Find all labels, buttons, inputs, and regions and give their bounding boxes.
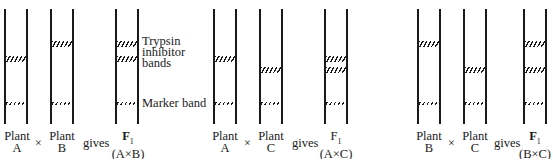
lane-edge [417, 9, 419, 124]
f1-subscript: 1 [537, 137, 541, 146]
gives-text: gives [292, 136, 318, 151]
cross-symbol: × [35, 136, 42, 151]
marker-band [116, 102, 138, 105]
trypsin-inhibitor-band-a [5, 56, 27, 62]
gel-lane-f1-axc [324, 9, 348, 124]
label-line: bands [142, 58, 185, 69]
lane-edge [439, 9, 441, 124]
trypsin-inhibitor-band-a [325, 56, 347, 62]
parent-label-c: Plant C [460, 130, 490, 154]
marker-band [325, 102, 347, 105]
gel-lane-plant-a [213, 9, 237, 124]
marker-band [524, 102, 546, 105]
lane-edge [50, 9, 52, 124]
f1-subscript: 1 [337, 137, 341, 146]
f1-label: F1 [515, 130, 553, 148]
label-id: C [256, 142, 286, 154]
trypsin-inhibitor-band-b [418, 41, 440, 47]
f1-subscript: 1 [130, 137, 134, 146]
cross-symbol: × [448, 136, 455, 151]
parent-label-a: Plant A [2, 130, 32, 154]
f1-label: F1 [316, 130, 356, 148]
gel-lane-f1-axb [115, 9, 139, 124]
lane-edge [137, 9, 139, 124]
gel-lane-plant-b [50, 9, 74, 124]
parent-label-b: Plant B [47, 130, 77, 154]
cross-symbol: × [244, 136, 251, 151]
trypsin-inhibitor-band-b [116, 41, 138, 47]
lane-edge [72, 9, 74, 124]
marker-band [51, 102, 73, 105]
marker-band [214, 102, 236, 105]
gel-lane-plant-a [4, 9, 28, 124]
cross-notation: (B×C) [515, 148, 553, 160]
trypsin-inhibitor-band-c [464, 67, 486, 73]
parent-label-c: Plant C [256, 130, 286, 154]
marker-band [464, 102, 486, 105]
trypsin-inhibitor-band-c [260, 67, 282, 73]
offspring-label-axb: F1 (A×B) [108, 130, 148, 159]
f1-word: F [122, 129, 130, 143]
gel-lane-plant-c [259, 9, 283, 124]
lane-edge [26, 9, 28, 124]
trypsin-inhibitor-band-c [325, 67, 347, 73]
label-id: A [210, 142, 240, 154]
lane-edge [235, 9, 237, 124]
marker-band [260, 102, 282, 105]
offspring-label-bxc: F1 (B×C) [515, 130, 553, 159]
marker-band [418, 102, 440, 105]
trypsin-inhibitor-label: Trypsin inhibitor bands [142, 36, 185, 69]
parent-label-b: Plant B [414, 130, 444, 154]
label-id: C [460, 142, 490, 154]
lane-edge [213, 9, 215, 124]
trypsin-inhibitor-band-b [524, 41, 546, 47]
f1-word: F [529, 129, 537, 143]
label-id: B [47, 142, 77, 154]
cross-notation: (A×B) [108, 148, 148, 160]
label-id: A [2, 142, 32, 154]
gel-lane-f1-bxc [523, 9, 547, 124]
trypsin-inhibitor-band-a [116, 56, 138, 62]
f1-label: F1 [108, 130, 148, 148]
gel-lane-plant-c [463, 9, 487, 124]
parent-label-a: Plant A [210, 130, 240, 154]
marker-band [5, 102, 27, 105]
gives-text: gives [83, 136, 109, 151]
label-id: B [414, 142, 444, 154]
trypsin-inhibitor-band-c [524, 67, 546, 73]
cross-notation: (A×C) [316, 148, 356, 160]
trypsin-inhibitor-band-b [51, 41, 73, 47]
marker-band-label: Marker band [142, 98, 206, 109]
trypsin-inhibitor-band-a [214, 56, 236, 62]
gel-lane-plant-b [417, 9, 441, 124]
lane-edge [4, 9, 6, 124]
offspring-label-axc: F1 (A×C) [316, 130, 356, 159]
lane-edge [115, 9, 117, 124]
